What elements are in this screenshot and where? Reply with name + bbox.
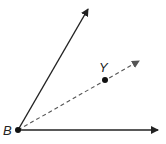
upper-ray [18, 9, 88, 130]
vertex-point-b [15, 127, 21, 133]
dashed-ray [18, 61, 139, 130]
vertex-label-b: B [3, 123, 12, 138]
point-label-y: Y [99, 60, 109, 75]
point-y [102, 77, 108, 83]
angle-diagram: B Y [0, 0, 166, 144]
